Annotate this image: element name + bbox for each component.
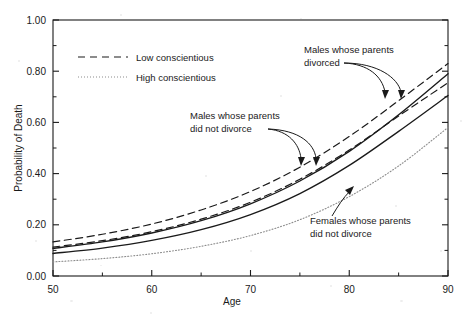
chart-background (0, 0, 467, 324)
y-tick-label: 1.00 (27, 15, 47, 26)
annotation-females-not-divorced-line2: did not divorce (310, 228, 372, 239)
figure-container: 50607080900.000.200.400.600.801.00 Age P… (0, 0, 467, 324)
x-tick-label: 50 (47, 284, 59, 295)
annotation-males-not-divorced-line2: did not divorce (190, 123, 252, 134)
x-tick-label: 70 (245, 284, 257, 295)
y-tick-label: 0.40 (27, 168, 47, 179)
y-tick-label: 0.00 (27, 271, 47, 282)
legend-label-high-conscientious: High conscientious (136, 72, 216, 83)
y-tick-label: 0.80 (27, 66, 47, 77)
legend-label-low-conscientious: Low conscientious (136, 52, 214, 63)
y-axis-title: Probability of Death (13, 104, 24, 191)
y-tick-label: 0.20 (27, 219, 47, 230)
y-tick-label: 0.60 (27, 117, 47, 128)
x-tick-label: 90 (442, 284, 454, 295)
annotation-males-divorced-line1: Males whose parents (304, 44, 394, 55)
probability-of-death-chart: 50607080900.000.200.400.600.801.00 Age P… (0, 0, 467, 324)
x-axis-title: Age (223, 296, 241, 307)
annotation-females-not-divorced-line1: Females whose parents (310, 215, 411, 226)
annotation-males-not-divorced-line1: Males whose parents (190, 110, 280, 121)
x-tick-label: 80 (344, 284, 356, 295)
x-tick-label: 60 (146, 284, 158, 295)
annotation-males-divorced-line2: divorced (304, 57, 340, 68)
